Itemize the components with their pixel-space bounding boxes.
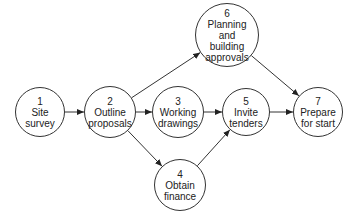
- node-4: 4Obtainfinance: [154, 159, 206, 211]
- node-line2: finance: [164, 191, 196, 202]
- node-number: 3: [175, 96, 181, 107]
- node-1: 1Sitesurvey: [15, 87, 65, 137]
- node-3: 3Workingdrawings: [152, 86, 204, 138]
- node-line2: survey: [25, 118, 54, 129]
- node-6: 6Planningandbuildingapprovals: [195, 3, 259, 67]
- node-2: 2Outlineproposals: [84, 86, 136, 138]
- node-line4: approvals: [205, 52, 248, 63]
- node-line2: tenders: [229, 118, 262, 129]
- node-number: 2: [107, 96, 113, 107]
- node-5: 5Invitetenders: [222, 88, 270, 136]
- edge-6-7: [251, 56, 298, 96]
- edge-2-4: [128, 131, 162, 166]
- node-line1: Prepare: [300, 107, 336, 118]
- node-line1: Planning: [208, 19, 247, 30]
- node-number: 4: [177, 169, 183, 180]
- node-number: 5: [243, 96, 249, 107]
- node-line2: for start: [301, 118, 335, 129]
- node-line1: Obtain: [165, 180, 194, 191]
- node-line1: Working: [160, 107, 197, 118]
- node-line1: Outline: [94, 107, 126, 118]
- edge-4-5: [197, 130, 229, 166]
- node-number: 1: [37, 96, 43, 107]
- node-line1: Site: [31, 107, 48, 118]
- node-number: 7: [315, 96, 321, 107]
- node-line2: and: [219, 30, 236, 41]
- node-line2: proposals: [88, 118, 131, 129]
- node-line1: Invite: [234, 107, 258, 118]
- node-number: 6: [224, 8, 230, 19]
- node-7: 7Preparefor start: [293, 87, 343, 137]
- node-line3: building: [210, 41, 244, 52]
- node-line2: drawings: [158, 118, 198, 129]
